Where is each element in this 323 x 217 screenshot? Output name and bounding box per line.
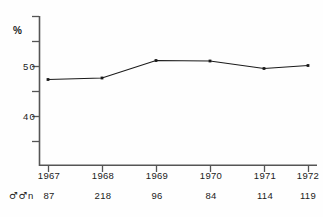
- x-label-1972: 1972: [284, 170, 323, 181]
- x-label-1969: 1969: [133, 170, 181, 181]
- data-line: [48, 61, 308, 80]
- sample-size-1969: 96: [133, 190, 181, 201]
- sample-size-1970: 84: [187, 190, 235, 201]
- chart-figure: % 50 40 1967 1968 1969 1970 1971 1972 ♂♂…: [0, 0, 323, 217]
- data-point-1971: [263, 67, 266, 70]
- sample-size-1972: 119: [284, 190, 323, 201]
- y-label-50: 50: [10, 61, 36, 72]
- x-label-1967: 1967: [25, 170, 73, 181]
- data-point-1967: [47, 78, 50, 81]
- line-chart-plot: [0, 0, 323, 217]
- x-label-1971: 1971: [241, 170, 289, 181]
- sample-size-1967: 87: [25, 190, 73, 201]
- data-point-1969: [155, 59, 158, 62]
- y-label-50-wrap: 50: [8, 61, 36, 72]
- data-point-1970: [209, 60, 212, 63]
- data-point-1972: [307, 64, 310, 67]
- x-label-1968: 1968: [79, 170, 127, 181]
- x-label-1970: 1970: [187, 170, 235, 181]
- data-point-1968: [101, 77, 104, 80]
- y-label-40-wrap: 40: [8, 111, 36, 122]
- sample-size-1968: 218: [79, 190, 127, 201]
- y-label-40: 40: [10, 111, 36, 122]
- sample-size-1971: 114: [241, 190, 289, 201]
- y-axis-unit-label: %: [13, 25, 22, 36]
